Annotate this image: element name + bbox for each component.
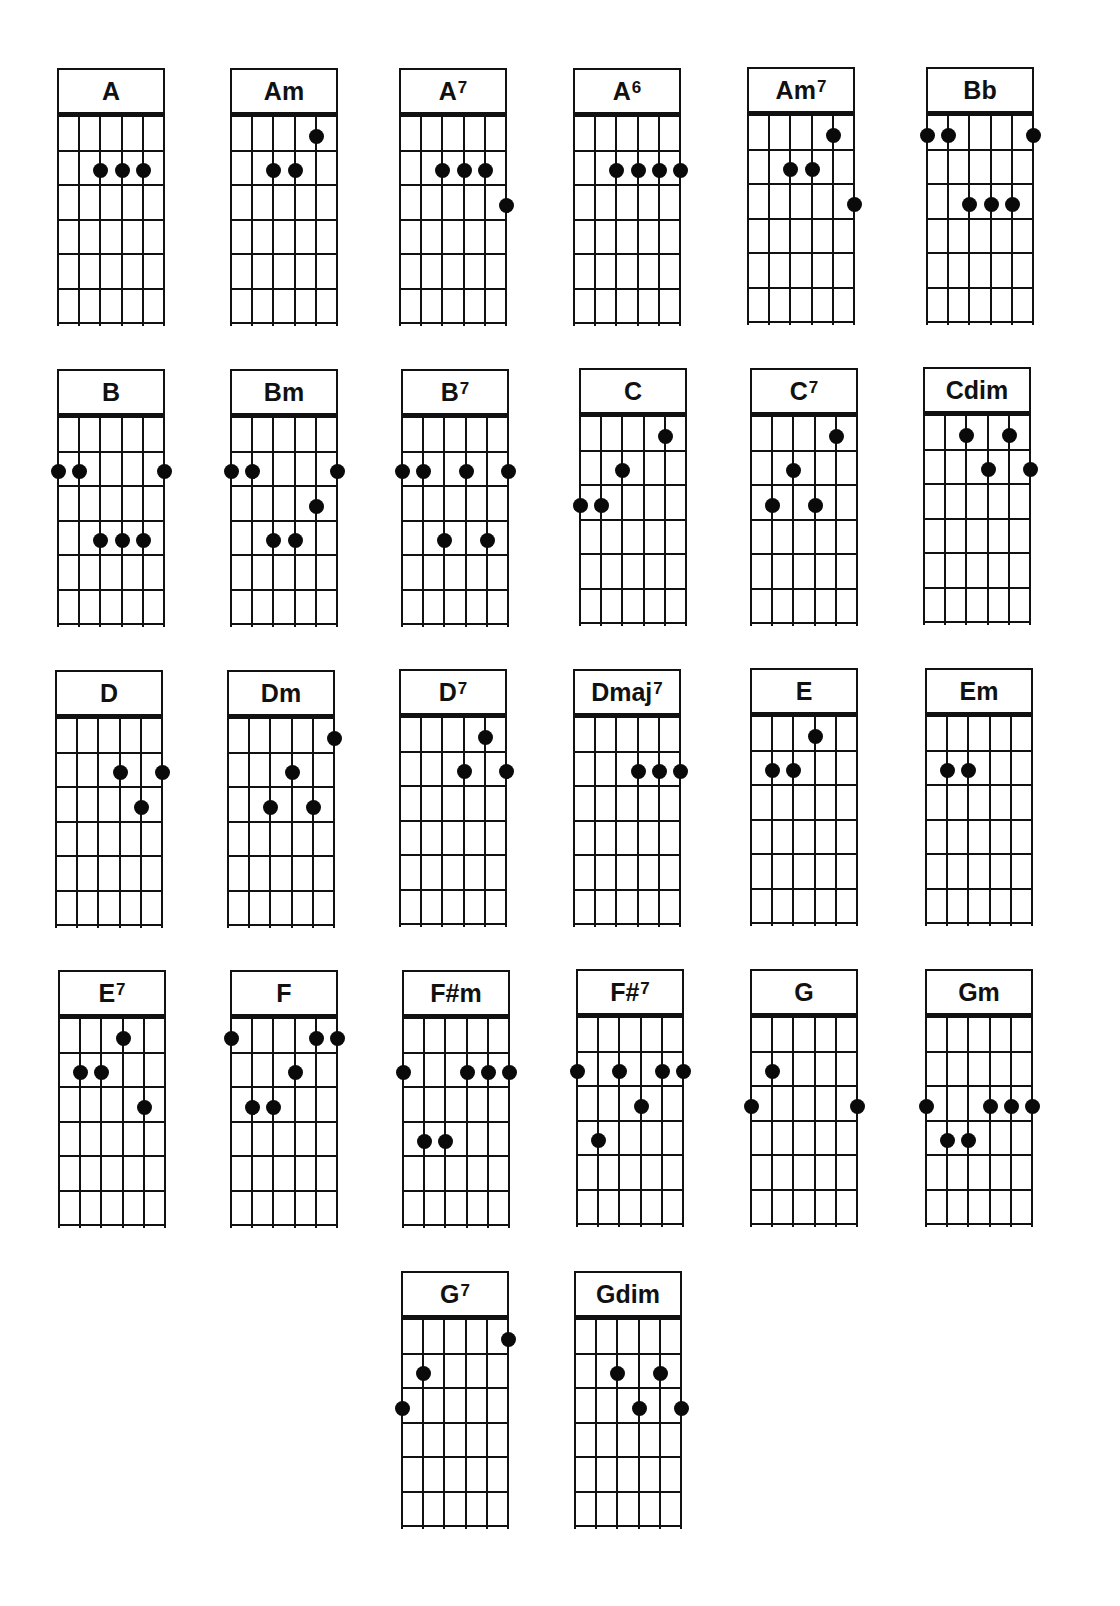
fret-line xyxy=(750,1085,858,1087)
fret-line xyxy=(574,1387,682,1389)
fret-line xyxy=(399,184,507,186)
nut xyxy=(230,112,338,117)
chord-name: Dmaj7 xyxy=(573,669,681,713)
fret-line xyxy=(402,1190,510,1192)
fret-line xyxy=(230,589,338,591)
finger-dot xyxy=(501,1332,516,1347)
fret-line xyxy=(230,288,338,290)
chord-name: B xyxy=(57,369,165,413)
finger-dot xyxy=(652,764,667,779)
nut xyxy=(230,1014,338,1019)
fret-line xyxy=(227,786,335,788)
fret-line xyxy=(747,321,855,323)
finger-dot xyxy=(134,800,149,815)
chord-c7: C7 xyxy=(750,368,858,626)
finger-dot xyxy=(266,533,281,548)
chord-extension-label: 7 xyxy=(460,1281,469,1301)
chord-name: A xyxy=(57,68,165,112)
chord-root-label: Dm xyxy=(261,679,301,708)
finger-dot xyxy=(263,800,278,815)
chord-root-label: D xyxy=(439,678,457,707)
finger-dot xyxy=(850,1099,865,1114)
chord-name: D xyxy=(55,670,163,714)
fret-line xyxy=(926,218,1034,220)
finger-dot xyxy=(457,163,472,178)
finger-dot xyxy=(438,1134,453,1149)
chord-root-label: Cdim xyxy=(946,376,1009,405)
finger-dot xyxy=(245,464,260,479)
fret-line xyxy=(925,1051,1033,1053)
fret-line xyxy=(750,819,858,821)
chord-a7: A7 xyxy=(399,68,507,326)
finger-dot xyxy=(919,1099,934,1114)
fret-line xyxy=(923,621,1031,623)
chord-a6: A6 xyxy=(573,68,681,326)
finger-dot xyxy=(1025,1099,1040,1114)
fret-line xyxy=(925,1085,1033,1087)
finger-dot xyxy=(631,764,646,779)
finger-dot xyxy=(224,1031,239,1046)
fret-line xyxy=(230,554,338,556)
fret-line xyxy=(399,322,507,324)
chord-root-label: A xyxy=(439,77,457,106)
fret-line xyxy=(230,1155,338,1157)
chord-root-label: Bm xyxy=(264,378,304,407)
finger-dot xyxy=(115,533,130,548)
fret-line xyxy=(399,288,507,290)
finger-dot xyxy=(961,763,976,778)
finger-dot xyxy=(1005,197,1020,212)
fret-line xyxy=(399,889,507,891)
chord-d7: D7 xyxy=(399,669,507,927)
finger-dot xyxy=(676,1064,691,1079)
finger-dot xyxy=(417,1134,432,1149)
chord-extension-label: 7 xyxy=(458,679,467,699)
fretboard xyxy=(57,112,165,326)
fret-line xyxy=(401,1353,509,1355)
fret-line xyxy=(750,1154,858,1156)
finger-dot xyxy=(93,533,108,548)
chord-root-label: Am xyxy=(264,77,304,106)
fretboard xyxy=(230,413,338,627)
finger-dot xyxy=(765,498,780,513)
finger-dot xyxy=(155,765,170,780)
chord-root-label: Bb xyxy=(963,76,996,105)
chord-extension-label: 7 xyxy=(116,980,125,1000)
chord-name: F xyxy=(230,970,338,1014)
finger-dot xyxy=(115,163,130,178)
fret-line xyxy=(399,219,507,221)
fret-line xyxy=(574,1353,682,1355)
fret-line xyxy=(57,184,165,186)
nut xyxy=(926,111,1034,116)
fret-line xyxy=(750,519,858,521)
fret-line xyxy=(227,855,335,857)
fret-line xyxy=(230,520,338,522)
fret-line xyxy=(926,252,1034,254)
finger-dot xyxy=(157,464,172,479)
finger-dot xyxy=(826,128,841,143)
fret-line xyxy=(58,1121,166,1123)
fret-line xyxy=(55,855,163,857)
fret-line xyxy=(573,854,681,856)
chord-root-label: B xyxy=(102,378,120,407)
fret-line xyxy=(230,1190,338,1192)
finger-dot xyxy=(306,800,321,815)
fret-line xyxy=(402,1052,510,1054)
nut xyxy=(576,1013,684,1018)
chord-em: Em xyxy=(925,668,1033,926)
fret-line xyxy=(55,890,163,892)
chord-extension-label: 7 xyxy=(640,979,649,999)
fret-line xyxy=(573,184,681,186)
fret-line xyxy=(57,322,165,324)
finger-dot xyxy=(808,498,823,513)
fretboard xyxy=(402,1014,510,1228)
fret-line xyxy=(579,622,687,624)
finger-dot xyxy=(920,128,935,143)
fret-line xyxy=(747,183,855,185)
chord-dmaj7: Dmaj7 xyxy=(573,669,681,927)
chord-root-label: A xyxy=(613,77,631,106)
fret-line xyxy=(57,589,165,591)
fret-line xyxy=(925,853,1033,855)
finger-dot xyxy=(72,464,87,479)
finger-dot xyxy=(224,464,239,479)
fretboard xyxy=(399,713,507,927)
